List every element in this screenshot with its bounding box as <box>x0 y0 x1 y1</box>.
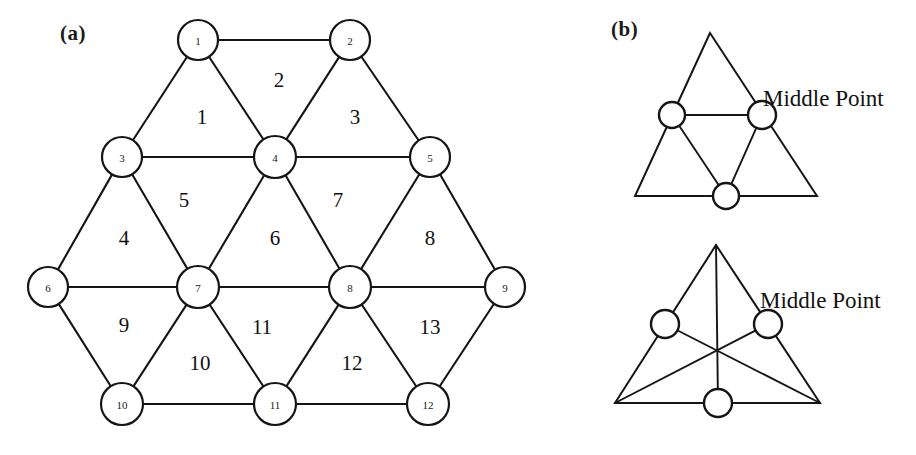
graph-edge <box>361 174 420 269</box>
node-label: 1 <box>195 35 201 47</box>
figure-svg: 12345678910111213 123456789101112 Middle… <box>0 0 916 455</box>
graph-node[interactable]: 9 <box>485 267 525 307</box>
middle-point-marker[interactable] <box>659 102 685 128</box>
panel-a-face-label-group: 12345678910111213 <box>119 68 441 375</box>
graph-node[interactable]: 8 <box>329 266 371 308</box>
node-label: 2 <box>347 35 353 47</box>
node-label: 5 <box>427 152 433 164</box>
graph-edge <box>133 57 187 140</box>
median-line <box>615 324 768 403</box>
node-label: 10 <box>117 399 129 411</box>
face-label: 8 <box>425 226 436 250</box>
midpoint-connector <box>679 126 719 185</box>
triangle-diagram-median-centroid <box>615 245 820 417</box>
face-label: 12 <box>342 351 363 375</box>
graph-edge <box>440 304 494 387</box>
middle-point-annotation: Middle Point <box>763 86 884 111</box>
face-label: 3 <box>350 105 361 129</box>
graph-node[interactable]: 7 <box>177 266 219 308</box>
middle-point-annotation: Middle Point <box>760 288 881 313</box>
triangle-diagram-midpoint-subdivision <box>635 33 817 209</box>
middle-point-marker[interactable] <box>754 310 782 338</box>
panel-label-b: (b) <box>611 17 638 42</box>
node-label: 7 <box>195 282 201 294</box>
face-label: 6 <box>270 226 281 250</box>
node-label: 12 <box>423 399 434 411</box>
graph-edge <box>362 304 417 386</box>
graph-edge <box>133 305 186 387</box>
graph-node[interactable]: 6 <box>28 267 68 307</box>
graph-edge <box>285 175 339 269</box>
figure-canvas: (a) (b) 12345678910111213 12345678910111… <box>0 0 916 455</box>
node-label: 8 <box>347 282 353 294</box>
median-line <box>665 324 820 403</box>
graph-edge <box>58 174 112 269</box>
graph-node[interactable]: 4 <box>254 136 296 178</box>
graph-node[interactable]: 12 <box>407 383 449 425</box>
face-label: 13 <box>420 315 441 339</box>
middle-point-marker[interactable] <box>704 389 732 417</box>
middle-point-marker[interactable] <box>651 310 679 338</box>
panel-b-annotation-group: Middle PointMiddle Point <box>760 86 884 313</box>
graph-edge <box>286 57 339 139</box>
node-label: 4 <box>272 152 278 164</box>
graph-node[interactable]: 1 <box>178 20 218 60</box>
face-label: 7 <box>333 188 344 212</box>
panel-label-a: (a) <box>60 21 86 46</box>
graph-edge <box>286 305 338 387</box>
face-label: 11 <box>252 315 272 339</box>
graph-edge <box>361 57 418 141</box>
graph-node[interactable]: 3 <box>102 137 142 177</box>
face-label: 5 <box>179 188 190 212</box>
node-label: 6 <box>45 282 51 294</box>
face-label: 1 <box>197 105 208 129</box>
graph-edge <box>440 174 495 269</box>
face-label: 10 <box>190 351 211 375</box>
panel-a-edge-group <box>58 40 495 404</box>
graph-edge <box>209 57 263 140</box>
graph-node[interactable]: 10 <box>101 383 143 425</box>
graph-node[interactable]: 5 <box>410 137 450 177</box>
node-label: 9 <box>502 282 508 294</box>
face-label: 2 <box>274 68 285 92</box>
face-label: 4 <box>119 226 130 250</box>
midpoint-connector <box>731 128 756 184</box>
face-label: 9 <box>119 313 130 337</box>
graph-node[interactable]: 11 <box>254 383 296 425</box>
graph-edge <box>209 175 265 269</box>
graph-node[interactable]: 2 <box>330 20 370 60</box>
node-label: 3 <box>119 152 125 164</box>
graph-edge <box>59 304 111 386</box>
middle-point-marker[interactable] <box>713 183 739 209</box>
node-label: 11 <box>270 399 281 411</box>
median-line <box>716 245 718 403</box>
